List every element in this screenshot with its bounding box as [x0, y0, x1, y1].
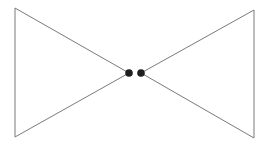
right-triangle: [141, 10, 254, 138]
left-triangle: [15, 8, 129, 137]
left-node-dot: [125, 69, 133, 77]
right-node-dot: [137, 69, 145, 77]
bowtie-diagram: [0, 0, 267, 145]
